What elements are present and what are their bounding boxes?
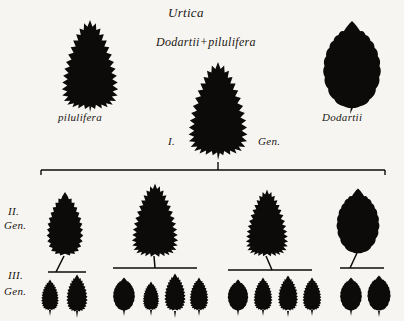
- f3-leaf: [278, 276, 298, 318]
- f3-leaf: [41, 280, 59, 317]
- parent-leaf-dodartii: [323, 21, 381, 114]
- f3-leaf: [113, 278, 135, 317]
- leaf-silhouettes-layer: [0, 0, 404, 321]
- f3-group-2: [113, 274, 208, 319]
- f3-leaf: [164, 274, 185, 319]
- f1-leaf: [189, 62, 248, 160]
- f3-leaf: [190, 278, 209, 317]
- f3-group-4: [340, 276, 390, 318]
- f2-leaf-2: [132, 184, 178, 269]
- f3-leaf: [143, 282, 159, 317]
- f3-leaf: [303, 278, 322, 317]
- f2-leaf-1: [47, 192, 84, 272]
- f1-to-f2-bracket: [41, 162, 385, 175]
- f3-leaf: [254, 278, 273, 317]
- f2-leaf-4: [337, 189, 380, 269]
- parent-leaf-pilulifera: [62, 20, 118, 112]
- f3-leaf: [367, 276, 390, 318]
- f3-leaf: [228, 280, 248, 317]
- f3-group-1: [41, 275, 88, 319]
- f3-leaf: [66, 275, 87, 319]
- f2-leaf-3: [246, 190, 288, 271]
- f3-leaf: [340, 278, 362, 317]
- urtica-pedigree-figure: Urtica Dodartii+pilulifera pilulifera Do…: [0, 0, 404, 321]
- f3-group-3: [228, 276, 322, 318]
